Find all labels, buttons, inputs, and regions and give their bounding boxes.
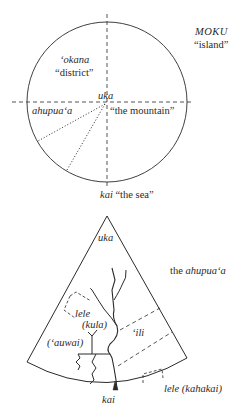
- kai-term-sector: kai: [102, 395, 115, 406]
- auwai-ditch: [88, 330, 97, 354]
- moku-term: MOKU: [195, 27, 228, 38]
- uka-term-circle: uka: [98, 91, 113, 102]
- ili-boundary-lower: [118, 332, 172, 366]
- ahupuaa-term-circle: ahupuaʻa: [32, 106, 72, 117]
- mountain-gloss: “the mountain”: [110, 106, 174, 117]
- uka-term-sector: uka: [98, 233, 113, 244]
- stream-tributary-left: [76, 354, 110, 370]
- ahupuaa-dotted-boundary-2: [67, 104, 105, 170]
- stream-main: [108, 268, 118, 389]
- island-gloss: “island”: [194, 40, 228, 51]
- auwai-term: (ʻauwai): [47, 338, 83, 349]
- sector-caption: the ahupuaʻa: [170, 266, 226, 277]
- kai-sea-label: kai “the sea”: [100, 190, 154, 201]
- okana-term: ʻokana: [60, 55, 89, 66]
- ili-term: ʻili: [132, 328, 144, 339]
- caption-term: ahupuaʻa: [185, 265, 225, 276]
- kula-term: (kula): [82, 320, 107, 331]
- land-division-diagram: [0, 0, 252, 420]
- stream-tributary-lower: [90, 354, 96, 384]
- district-gloss: “district”: [55, 68, 93, 79]
- sea-gloss: “the sea”: [115, 189, 153, 200]
- kai-term-circle: kai: [100, 189, 113, 200]
- caption-prefix: the: [170, 265, 183, 276]
- lele-kahakai-term: lele (kahakai): [164, 384, 222, 395]
- stream-branch-right: [114, 270, 126, 300]
- lele-term: lele: [75, 309, 90, 320]
